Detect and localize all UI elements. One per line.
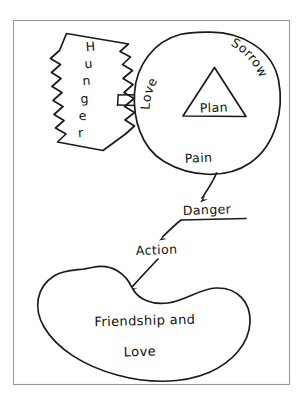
hunger-letter-1: u [84, 56, 93, 72]
hunger-letter-4: e [78, 108, 87, 124]
blob-label-line2: Love [124, 344, 157, 360]
plan-text: Plan [199, 100, 228, 116]
connector-line-cap [118, 95, 119, 106]
diagram-canvas: H u n g e r Love [0, 0, 304, 406]
danger-text: Danger [183, 201, 232, 218]
node-circle: Love Sorrow Pain Plan [134, 32, 280, 174]
hunger-letter-3: g [80, 91, 89, 107]
pain-text: Pain [184, 150, 212, 166]
blob-label-line1: Friendship and [94, 312, 195, 330]
hunger-letter-0: H [85, 39, 96, 55]
action-text: Action [136, 242, 178, 258]
hunger-letter-2: n [82, 73, 91, 89]
